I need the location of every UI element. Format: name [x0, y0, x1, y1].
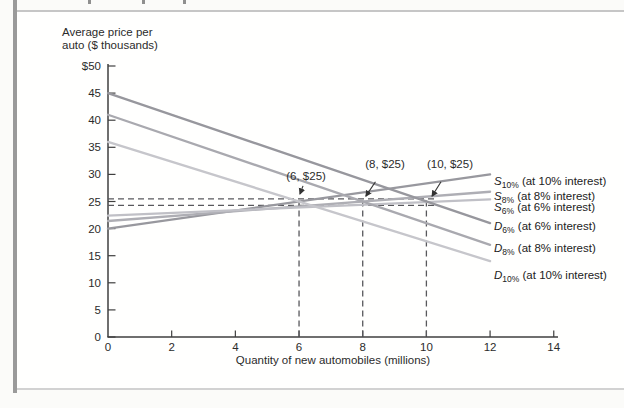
series-label-demand-8pct: D8% (at 8% interest): [494, 241, 596, 256]
y-tick-label: 40: [88, 114, 101, 126]
annotation-arrow: [432, 182, 441, 196]
series-label-demand-6pct: D6% (at 6% interest): [494, 219, 596, 234]
x-tick-label: 4: [232, 341, 239, 353]
y-tick-label: 30: [88, 168, 101, 180]
y-tick-label: 35: [88, 141, 101, 153]
x-tick-label: 14: [547, 341, 560, 353]
x-tick-label: 0: [105, 341, 111, 353]
x-tick-label: 12: [484, 341, 497, 353]
y-tick-label: 25: [88, 196, 101, 208]
x-tick-label: 2: [168, 341, 174, 353]
y-tick-label: 5: [95, 304, 101, 316]
annotation-label: (6, $25): [286, 170, 326, 182]
y-tick-label: 10: [88, 277, 101, 289]
y-tick-label: 20: [88, 223, 101, 235]
y-tick-label: 45: [88, 87, 101, 99]
y-tick-label: 15: [88, 250, 101, 262]
series-label-supply-10pct: S10% (at 10% interest): [494, 174, 606, 189]
page: Average price per auto ($ thousands) 051…: [0, 0, 624, 408]
x-tick-label: 10: [420, 341, 433, 353]
series-label-supply-6pct: S6% (at 6% interest): [494, 200, 595, 215]
annotation-arrow: [366, 182, 376, 196]
annotation-arrow: [300, 186, 303, 194]
x-axis-title: Quantity of new automobiles (millions): [108, 354, 558, 367]
y-tick-label: $50: [82, 60, 101, 72]
series-label-demand-10pct: D10% (at 10% interest): [494, 268, 607, 283]
x-tick-label: 8: [360, 341, 366, 353]
annotation-label: (8, $25): [365, 158, 405, 170]
y-tick-label: 0: [95, 331, 101, 343]
x-tick-label: 6: [296, 341, 302, 353]
annotation-label: (10, $25): [427, 158, 473, 170]
